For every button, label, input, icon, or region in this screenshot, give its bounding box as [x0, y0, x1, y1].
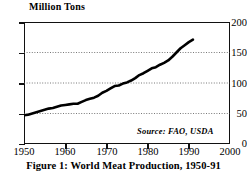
x-tick-mark	[188, 144, 190, 149]
figure-caption: Figure 1: World Meat Production, 1950-91	[0, 160, 247, 171]
x-tick-label-2000: 2000	[213, 146, 247, 157]
x-tick-mark	[106, 144, 108, 149]
x-tick-mark	[65, 144, 67, 149]
figure-container: Million Tons 200 150 100 50 0 1950 1960 …	[0, 0, 247, 178]
data-series-line	[24, 40, 193, 116]
x-tick-label-1950: 1950	[7, 146, 41, 157]
x-tick-mark	[147, 144, 149, 149]
y-axis-title: Million Tons	[29, 1, 85, 12]
source-annotation: Source: FAO, USDA	[137, 126, 214, 136]
